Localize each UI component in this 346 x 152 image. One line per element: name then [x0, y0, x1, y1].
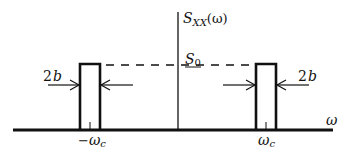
- omega-c-label: ωc: [258, 132, 275, 149]
- left-width-label: 2b: [43, 68, 62, 84]
- diagram-canvas: SXX(ω) S0 2b 2b −ωc ωc ω: [0, 0, 346, 152]
- omega-axis-label: ω: [326, 112, 338, 128]
- right-width-arrows: [223, 80, 309, 90]
- y-axis-label: SXX(ω): [183, 10, 228, 28]
- right-width-label: 2b: [298, 68, 317, 84]
- psd-diagram: SXX(ω) S0 2b 2b −ωc ωc ω: [0, 0, 346, 152]
- s0-label: S0: [185, 51, 201, 68]
- right-pulse: [256, 64, 276, 130]
- left-pulse: [80, 64, 100, 130]
- neg-omega-c-label: −ωc: [78, 132, 106, 149]
